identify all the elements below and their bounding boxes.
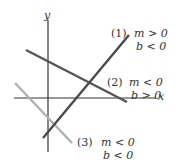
line-1-tag: (1) — [111, 28, 127, 39]
line-3-tag: (3) — [77, 137, 93, 148]
y-axis-label: y — [44, 10, 50, 21]
line-2-slope-condition: m < 0 — [129, 77, 163, 88]
line-3-intercept-condition: b < 0 — [103, 150, 133, 161]
line-3-slope-condition: m < 0 — [101, 137, 135, 148]
line-2-intercept-condition: b > 0 — [131, 90, 161, 101]
line-1-slope-condition: m > 0 — [134, 28, 168, 39]
line-1-intercept-condition: b < 0 — [136, 41, 166, 52]
line-2-tag: (2) — [107, 77, 123, 88]
